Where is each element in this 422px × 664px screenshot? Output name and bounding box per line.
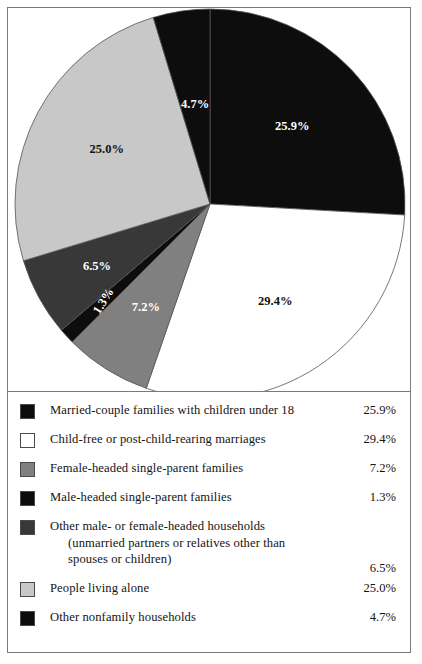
legend-value: 1.3% [350,487,396,506]
legend-value: 25.0% [350,578,396,597]
legend-label-continuation: (unmarried partners or relatives other t… [50,535,350,552]
pie-chart: 25.9%29.4%7.2%1.3%6.5%25.0%4.7% [8,8,410,391]
legend-value: 4.7% [350,607,396,626]
legend-swatch-wrap [20,487,50,506]
legend-label: Other male- or female-headed households(… [50,516,350,568]
legend-label: Married-couple families with children un… [50,400,350,419]
legend-swatch-wrap [20,578,50,597]
legend: Married-couple families with children un… [8,392,410,652]
pie-slice[interactable] [210,9,405,215]
legend-swatch-icon [20,491,35,506]
legend-swatch-wrap [20,400,50,419]
legend-swatch-wrap [20,607,50,626]
legend-swatch-wrap [20,516,50,535]
pie-slice-group [15,9,405,391]
pie-slice-label: 25.9% [275,119,309,133]
pie-slice-label: 25.0% [90,142,124,156]
pie-slice-label: 29.4% [258,294,292,308]
legend-label: Child-free or post-child-rearing marriag… [50,429,350,448]
pie-slice-label: 6.5% [83,259,111,273]
pie-chart-area: 25.9%29.4%7.2%1.3%6.5%25.0%4.7% [8,8,410,391]
legend-swatch-icon [20,404,35,419]
legend-swatch-icon [20,462,35,477]
figure-frame: 25.9%29.4%7.2%1.3%6.5%25.0%4.7% Married-… [7,7,411,653]
legend-label-continuation: spouses or children) [50,551,350,568]
legend-swatch-icon [20,433,35,448]
legend-label: Male-headed single-parent families [50,487,350,506]
legend-swatch-icon [20,520,35,535]
legend-swatch-wrap [20,429,50,448]
legend-swatch-wrap [20,458,50,477]
legend-value: 6.5% [350,560,396,579]
legend-label: Female-headed single-parent families [50,458,350,477]
legend-row[interactable]: Male-headed single-parent families1.3% [8,487,410,516]
pie-slice-label: 7.2% [132,300,160,314]
legend-swatch-icon [20,582,35,597]
legend-row[interactable]: Other male- or female-headed households(… [8,516,410,578]
legend-value: 29.4% [350,429,396,448]
legend-row[interactable]: Child-free or post-child-rearing marriag… [8,429,410,458]
legend-rows: Married-couple families with children un… [8,400,410,636]
legend-row[interactable]: Other nonfamily households4.7% [8,607,410,636]
legend-value: 7.2% [350,458,396,477]
legend-swatch-icon [20,611,35,626]
legend-row[interactable]: Married-couple families with children un… [8,400,410,429]
pie-slice-label: 4.7% [181,97,209,111]
legend-row[interactable]: People living alone25.0% [8,578,410,607]
legend-label: Other nonfamily households [50,607,350,626]
legend-row[interactable]: Female-headed single-parent families7.2% [8,458,410,487]
legend-label: People living alone [50,578,350,597]
legend-value: 25.9% [350,400,396,419]
